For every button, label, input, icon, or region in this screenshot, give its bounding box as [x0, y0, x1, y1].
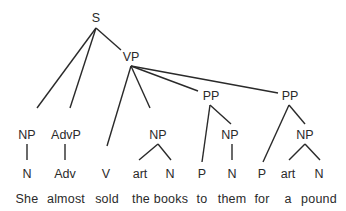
- node-np4: NP: [296, 129, 313, 142]
- edge-s-np1: [37, 28, 96, 108]
- word-a: a: [284, 193, 291, 206]
- word-for: for: [254, 193, 269, 206]
- edge-pp1-p1: [202, 105, 210, 162]
- word-almost: almost: [47, 193, 85, 206]
- edge-np2-art1: [139, 144, 158, 160]
- word-the: the: [132, 193, 150, 206]
- node-n4: N: [314, 168, 323, 181]
- edge-vp-v: [107, 66, 131, 146]
- word-to: to: [197, 193, 208, 206]
- edge-np4-art2: [289, 144, 305, 160]
- edge-pp2-np4: [289, 105, 305, 124]
- node-pp1: PP: [203, 90, 220, 103]
- node-art2: art: [281, 168, 296, 181]
- word-pound: pound: [301, 193, 337, 206]
- node-art1: art: [133, 168, 148, 181]
- node-n2: N: [165, 168, 174, 181]
- node-np2: NP: [149, 129, 166, 142]
- word-them: them: [218, 193, 247, 206]
- node-n1: N: [22, 168, 31, 181]
- node-pp2: PP: [282, 90, 299, 103]
- word-sold: sold: [95, 193, 119, 206]
- node-np1: NP: [18, 129, 35, 142]
- node-vp: VP: [123, 51, 140, 64]
- word-books: books: [154, 193, 188, 206]
- word-she: She: [16, 193, 39, 206]
- node-np3: NP: [221, 129, 238, 142]
- edge-s-advp: [70, 28, 96, 108]
- node-adv: Adv: [54, 168, 76, 181]
- node-advp: AdvP: [51, 129, 81, 142]
- edge-np4-n4: [305, 144, 320, 160]
- edge-pp1-np3: [210, 105, 231, 124]
- node-n3: N: [227, 168, 236, 181]
- edge-s-vp: [96, 28, 121, 50]
- node-p1: P: [198, 168, 206, 181]
- node-v: V: [102, 168, 110, 181]
- edge-pp2-p2: [263, 105, 289, 162]
- edge-np2-n2: [158, 144, 171, 160]
- node-p2: P: [258, 168, 266, 181]
- node-s: S: [92, 12, 100, 25]
